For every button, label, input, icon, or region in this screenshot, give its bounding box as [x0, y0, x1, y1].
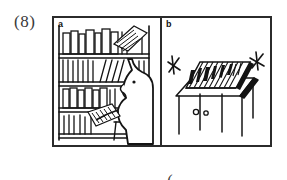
- caption-open-paren: (: [165, 171, 174, 180]
- person-silhouette: [118, 59, 153, 144]
- motion-mark-left: [168, 56, 180, 74]
- motion-mark-right: [250, 52, 264, 70]
- figure-frame: a: [52, 16, 272, 147]
- worksheet-sheet: (8) a: [0, 0, 287, 180]
- panel-a[interactable]: a: [54, 18, 162, 145]
- item-number: (8): [14, 13, 35, 30]
- answer-caption: ( a b ): [52, 151, 272, 180]
- panel-a-illustration: [54, 18, 162, 145]
- panel-b-illustration: [162, 18, 270, 145]
- panel-a-label: a: [58, 20, 63, 29]
- door-knobs: [193, 109, 208, 115]
- panel-b[interactable]: b: [162, 18, 270, 145]
- panel-b-label: b: [166, 20, 172, 29]
